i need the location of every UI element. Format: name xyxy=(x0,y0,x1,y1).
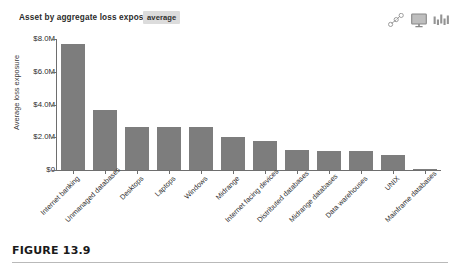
network-nodes-icon[interactable] xyxy=(388,13,405,31)
bar[interactable] xyxy=(93,110,117,170)
monitor-icon[interactable] xyxy=(411,13,427,32)
bar[interactable] xyxy=(221,137,245,170)
chart-plot-area: Average loss exposure $0$2.0M$4.0M$6.0M$… xyxy=(0,30,454,180)
bar[interactable] xyxy=(317,151,341,170)
metric-selector-chip[interactable]: average xyxy=(143,11,180,24)
bar-chart-icon[interactable] xyxy=(433,13,450,31)
x-axis-category-labels: Internet bankingUnmanaged databasesDeskt… xyxy=(0,172,454,240)
y-tick-label-1: $2.0M xyxy=(9,132,55,141)
y-tick-label-2: $4.0M xyxy=(9,100,55,109)
page-title: Asset by aggregate loss exposure xyxy=(19,13,157,22)
bar[interactable] xyxy=(157,127,181,170)
y-tick-label-4: $8.0M xyxy=(9,34,55,43)
bar[interactable] xyxy=(285,150,309,170)
caption-divider xyxy=(12,262,448,263)
bar[interactable] xyxy=(349,151,373,170)
bar-series xyxy=(57,39,441,170)
figure-panel: Asset by aggregate loss exposure average xyxy=(0,0,454,240)
y-axis-ticks: $0$2.0M$4.0M$6.0M$8.0M xyxy=(0,30,55,180)
figure-number-label: FIGURE 13.9 xyxy=(12,244,91,257)
y-tick-label-3: $6.0M xyxy=(9,67,55,76)
bar[interactable] xyxy=(125,127,149,170)
bar[interactable] xyxy=(381,155,405,170)
bar[interactable] xyxy=(61,44,85,170)
bar[interactable] xyxy=(189,127,213,170)
